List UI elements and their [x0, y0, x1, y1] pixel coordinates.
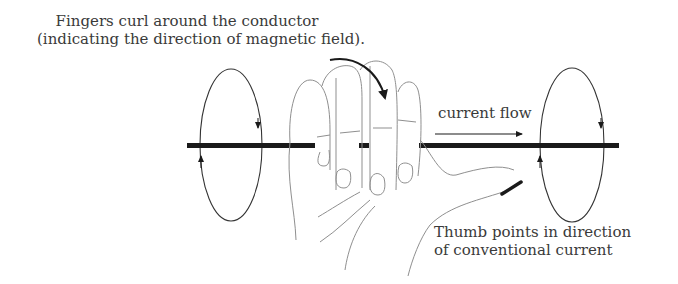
- thumb-tip-mark: [502, 182, 521, 194]
- conductor-wire: [187, 143, 619, 148]
- hand-outline: [289, 61, 514, 276]
- diagram-canvas: [0, 0, 678, 284]
- finger-curl-arrow-icon: [330, 59, 385, 98]
